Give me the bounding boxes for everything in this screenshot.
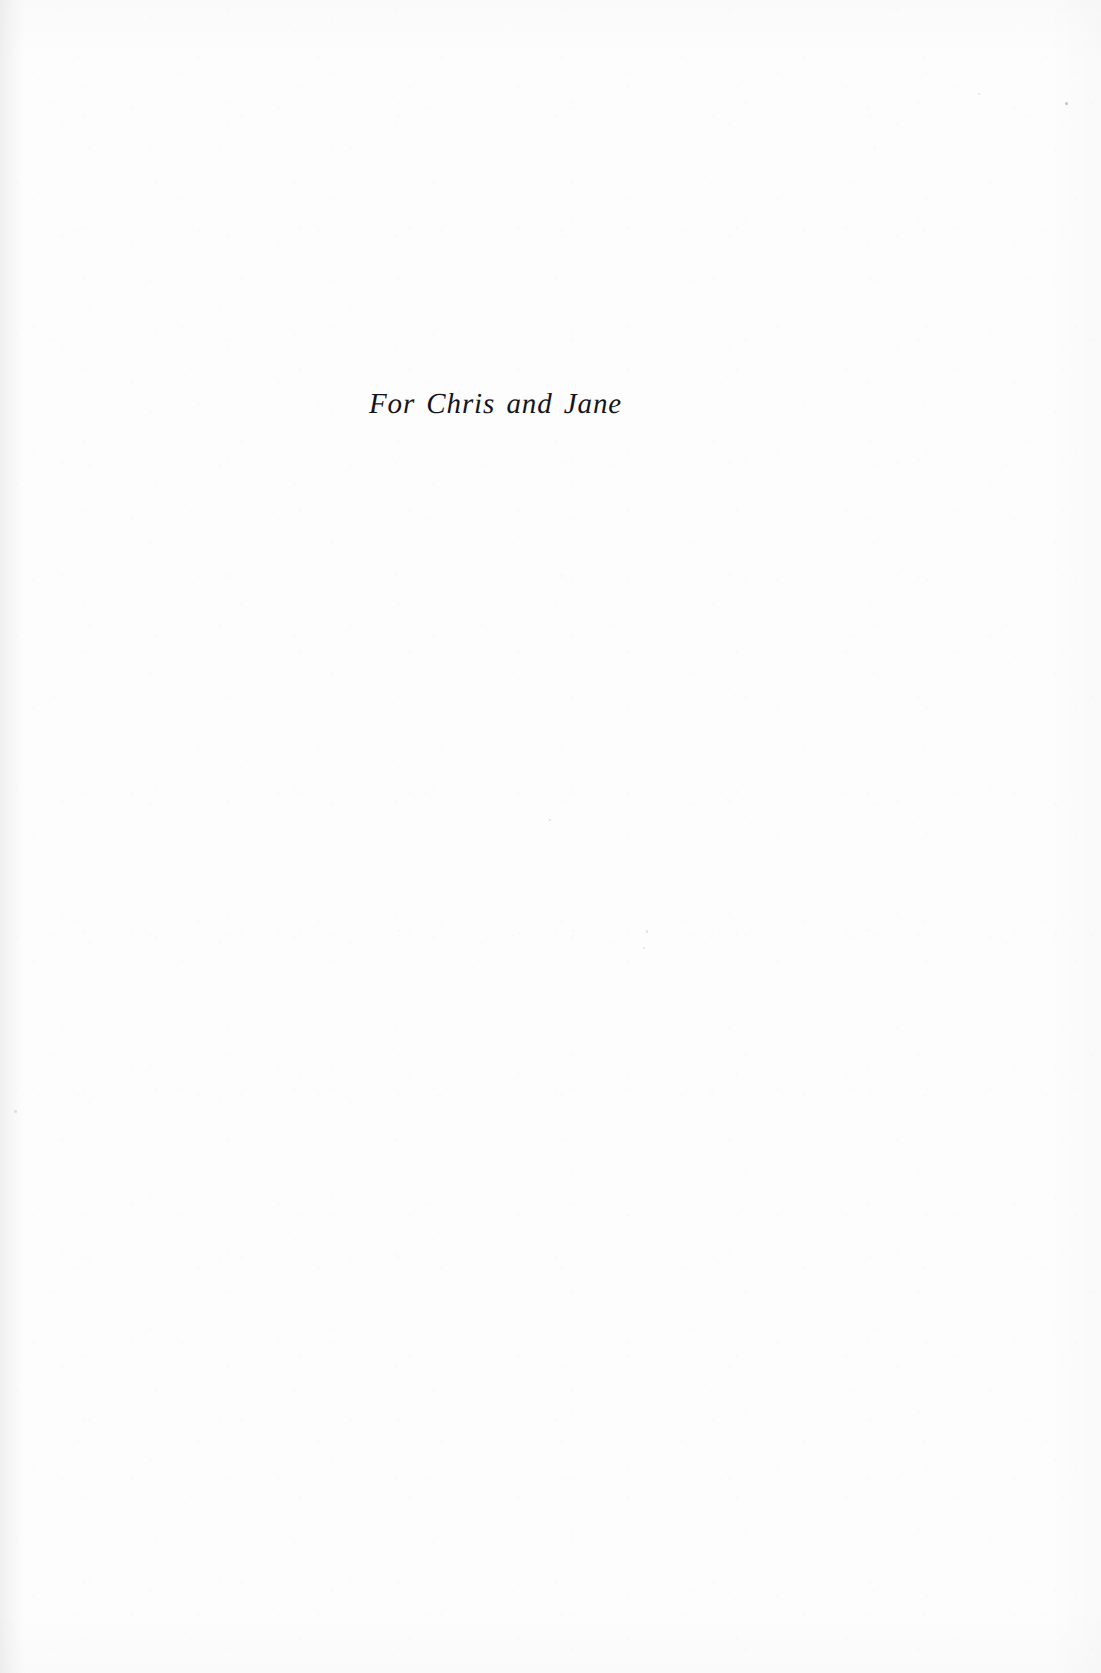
dedication-page: For Chris and Jane [0,0,1101,1673]
scan-speck [643,947,645,949]
scan-speck [14,1110,17,1113]
gutter-shadow [0,0,26,1673]
paper-grain-texture [0,0,1101,1673]
edge-vignette [0,0,1101,1673]
scan-speck [978,93,980,95]
scan-speck [646,930,648,933]
dedication-block: For Chris and Jane [0,386,1101,422]
dedication-text: For Chris and Jane [369,386,622,422]
scan-speck [1065,102,1068,105]
scan-speck [549,819,551,821]
